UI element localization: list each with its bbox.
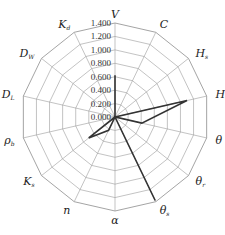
axis-label: DW <box>18 47 35 60</box>
axis-label: Ks <box>22 175 34 188</box>
axis-label: α <box>111 214 119 227</box>
axis-label: DL <box>1 88 15 101</box>
axis-label: V <box>111 8 120 21</box>
axis-spoke <box>115 117 188 176</box>
axis-label: n <box>63 204 70 217</box>
tick-label: 0.000 <box>91 112 112 122</box>
tick-label: 1.400 <box>91 18 112 28</box>
tick-labels: 0.0000.2000.4000.6000.8001.0001.2001.400 <box>91 18 112 122</box>
axis-label: θr <box>196 175 207 188</box>
tick-label: 0.600 <box>91 72 112 82</box>
tick-label: 0.800 <box>91 58 112 68</box>
tick-label: 0.400 <box>91 85 112 95</box>
axis-label: Hs <box>195 47 209 60</box>
axis-label: θs <box>160 204 170 217</box>
tick-label: 0.200 <box>91 99 112 109</box>
radar-chart: 0.0000.2000.4000.6000.8001.0001.2001.400… <box>0 0 225 235</box>
axis-label: θ <box>215 134 222 147</box>
axis-label: ρb <box>3 134 14 147</box>
tick-label: 1.200 <box>91 31 112 41</box>
tick-label: 1.000 <box>91 45 112 55</box>
axis-label: Ht <box>214 88 225 101</box>
axis-spoke <box>115 32 156 117</box>
axis-label: Kd <box>57 18 70 31</box>
axis-label: C <box>160 18 169 31</box>
